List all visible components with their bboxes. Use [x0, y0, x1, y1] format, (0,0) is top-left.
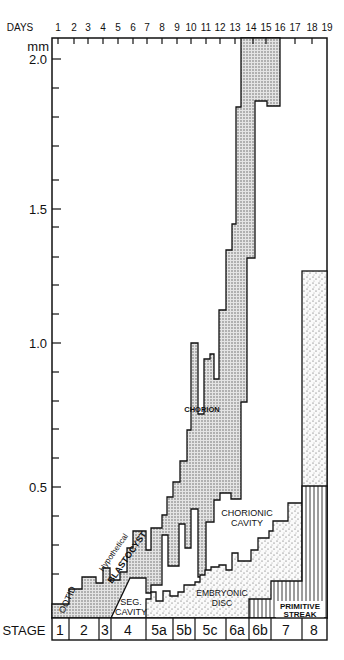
svg-text:CAVITY: CAVITY: [115, 607, 147, 617]
svg-text:8: 8: [159, 22, 165, 33]
svg-text:14: 14: [245, 22, 257, 33]
svg-text:6: 6: [130, 22, 136, 33]
chart: DAYS 1 2 3 4 5 6 7 8 9 10 11 12 13 14 15…: [0, 0, 344, 660]
svg-text:5c: 5c: [203, 622, 218, 638]
svg-text:DISC: DISC: [212, 598, 232, 608]
svg-text:5: 5: [115, 22, 121, 33]
svg-text:3: 3: [85, 22, 91, 33]
svg-text:SEG.: SEG.: [120, 597, 142, 607]
svg-text:1: 1: [55, 22, 61, 33]
stage-row: STAGE 1 2 3 4 5a 5b 5c 6a 6b 7 8: [2, 618, 327, 640]
svg-text:5a: 5a: [151, 622, 167, 638]
svg-text:1.0: 1.0: [29, 336, 47, 351]
svg-text:4: 4: [100, 22, 106, 33]
svg-text:3: 3: [101, 622, 109, 638]
svg-text:DAYS: DAYS: [7, 22, 34, 33]
svg-text:CHORIONIC: CHORIONIC: [221, 508, 273, 518]
svg-text:2: 2: [71, 22, 77, 33]
svg-text:7: 7: [282, 622, 290, 638]
svg-text:19: 19: [321, 22, 333, 33]
svg-text:EMBRYONIC: EMBRYONIC: [196, 588, 247, 598]
svg-text:5b: 5b: [176, 622, 192, 638]
svg-text:1.5: 1.5: [29, 202, 47, 217]
svg-text:STAGE: STAGE: [2, 623, 45, 638]
svg-text:12: 12: [214, 22, 226, 33]
svg-text:17: 17: [289, 22, 301, 33]
svg-text:18: 18: [306, 22, 318, 33]
svg-text:15: 15: [260, 22, 272, 33]
svg-text:11: 11: [201, 22, 212, 33]
svg-text:6a: 6a: [229, 622, 245, 638]
svg-text:1: 1: [56, 622, 64, 638]
svg-text:0.5: 0.5: [29, 480, 47, 495]
svg-text:13: 13: [229, 22, 241, 33]
svg-text:4: 4: [124, 622, 132, 638]
x-tick-labels: DAYS 1 2 3 4 5 6 7 8 9 10 11 12 13 14 15…: [7, 22, 333, 33]
svg-text:10: 10: [185, 22, 197, 33]
y-tick-labels: mm 2.0 1.5 1.0 0.5: [27, 39, 49, 495]
svg-text:9: 9: [174, 22, 180, 33]
svg-text:2.0: 2.0: [29, 52, 47, 67]
svg-text:8: 8: [310, 622, 318, 638]
svg-text:16: 16: [274, 22, 286, 33]
svg-text:2: 2: [80, 622, 88, 638]
svg-text:7: 7: [144, 22, 150, 33]
svg-text:CHORION: CHORION: [184, 405, 219, 414]
svg-text:6b: 6b: [252, 622, 268, 638]
svg-text:CAVITY: CAVITY: [231, 518, 263, 528]
